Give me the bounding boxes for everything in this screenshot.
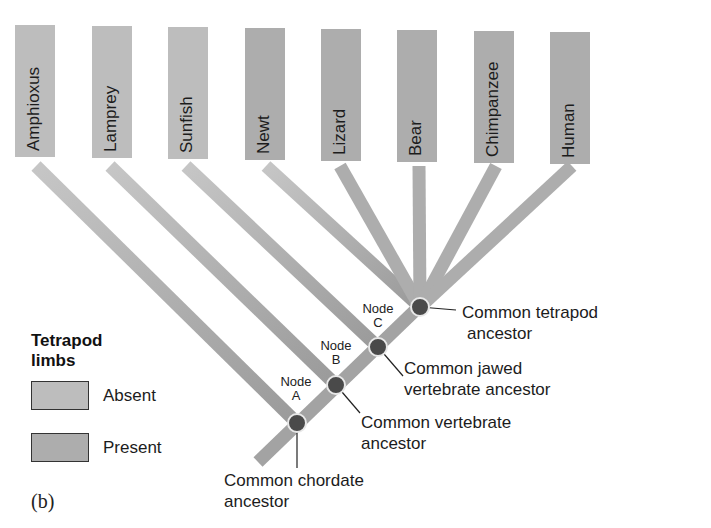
node-a-dot [288, 414, 306, 432]
ancestor-line: Common chordate [224, 470, 364, 491]
taxon-label: Lizard [330, 109, 350, 155]
taxon-sunfish: Sunfish [168, 27, 208, 159]
ancestor-label-vertebrate: Common vertebrate ancestor [361, 412, 511, 454]
taxon-label: Bear [406, 120, 426, 156]
node-label-word: Node [358, 302, 398, 316]
ancestor-line: vertebrate ancestor [404, 379, 550, 400]
legend-label-present: Present [103, 438, 162, 458]
taxon-label: Amphioxus [24, 67, 44, 151]
node-d-dot [411, 298, 429, 316]
ancestor-line: Common vertebrate [361, 412, 511, 433]
node-c-dot [369, 338, 387, 356]
node-label-word: Node [316, 339, 356, 353]
ancestor-line: Common tetrapod [462, 302, 598, 323]
taxon-chimpanzee: Chimpanzee [474, 31, 514, 163]
legend-swatch-present [31, 433, 89, 462]
taxon-label: Chimpanzee [483, 62, 503, 157]
ancestor-label-chordate: Common chordate ancestor [224, 470, 364, 512]
node-label-letter: B [316, 353, 356, 367]
ancestor-line: Common jawed [404, 358, 550, 379]
ancestor-line: ancestor [224, 491, 364, 512]
legend-title-line: limbs [31, 351, 102, 371]
node-label-letter: A [276, 389, 316, 403]
panel-label: (b) [31, 490, 54, 513]
taxon-bear: Bear [397, 30, 437, 162]
node-label-letter: C [358, 316, 398, 330]
node-a-label: Node A [276, 375, 316, 403]
legend-swatch-absent [31, 381, 89, 410]
taxon-amphioxus: Amphioxus [15, 25, 55, 157]
taxon-label: Newt [254, 115, 274, 154]
branch-bear [419, 166, 420, 307]
branch-human [420, 166, 572, 307]
ancestor-line: ancestor [462, 323, 598, 344]
taxon-human: Human [550, 32, 590, 164]
legend-title-line: Tetrapod [31, 331, 102, 351]
branch-chimpanzee [420, 166, 496, 307]
ancestor-label-jawed-vertebrate: Common jawed vertebrate ancestor [404, 358, 550, 400]
node-label-word: Node [276, 375, 316, 389]
legend-label-absent: Absent [103, 386, 156, 406]
taxon-label: Sunfish [177, 96, 197, 153]
node-b-label: Node B [316, 339, 356, 367]
node-c-label: Node C [358, 302, 398, 330]
taxon-label: Human [559, 103, 579, 158]
taxon-lamprey: Lamprey [92, 26, 132, 158]
ancestor-line: ancestor [361, 433, 511, 454]
ancestor-label-tetrapod: Common tetrapod ancestor [462, 302, 598, 344]
taxon-label: Lamprey [101, 86, 121, 152]
taxon-newt: Newt [245, 28, 285, 160]
taxon-lizard: Lizard [321, 29, 361, 161]
node-b-dot [327, 376, 345, 394]
legend-title: Tetrapod limbs [31, 331, 102, 371]
branch-newt [266, 166, 420, 307]
